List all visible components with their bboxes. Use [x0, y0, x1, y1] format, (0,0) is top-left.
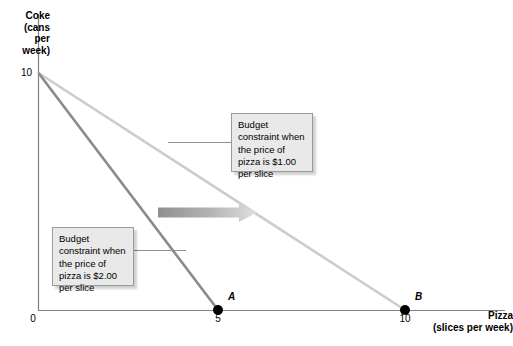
- shift-arrow-icon: [158, 203, 257, 222]
- budget-constraint-chart: Coke (cans per week) Pizza (slices per w…: [0, 0, 513, 346]
- x-axis-tick-5: 5: [208, 313, 228, 324]
- x-axis-title: Pizza (slices per week): [408, 310, 513, 333]
- callout-budget-constraint-price-2: Budget constraint when the price of pizz…: [52, 227, 134, 286]
- x-axis-tick-10: 10: [394, 313, 416, 324]
- x-axis-tick-0: 0: [26, 313, 40, 324]
- y-axis-tick-10: 10: [8, 67, 32, 78]
- y-axis-title: Coke (cans per week): [0, 10, 50, 56]
- callout-budget-constraint-price-1: Budget constraint when the price of pizz…: [231, 113, 313, 172]
- data-point-b-label: B: [415, 291, 422, 302]
- data-point-a-label: A: [228, 291, 235, 302]
